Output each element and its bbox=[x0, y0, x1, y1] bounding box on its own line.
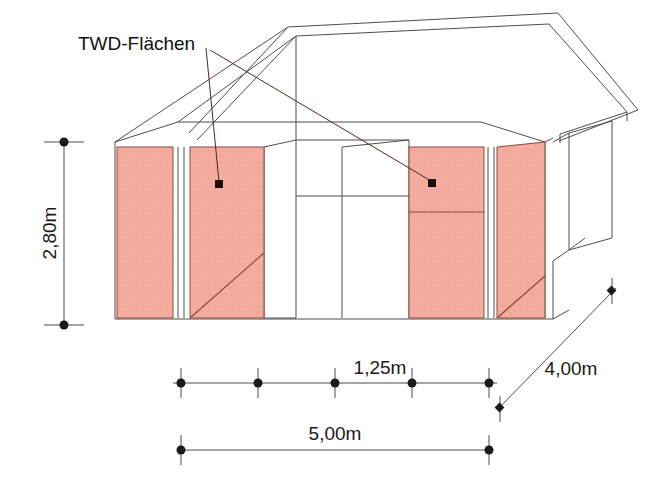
isometric-building-drawing: TWD-Flächen 2,80m 1,25m 5,00m bbox=[0, 0, 649, 500]
mullion-gap-right bbox=[488, 147, 494, 318]
interior-left-jamb-top bbox=[264, 140, 296, 147]
dim-module-dot-5 bbox=[485, 379, 494, 388]
roof-left-inner-edge bbox=[178, 36, 296, 122]
dim-depth-dot-far bbox=[607, 286, 617, 296]
dim-width-label: 5,00m bbox=[309, 423, 362, 444]
dim-height-dot-top bbox=[60, 138, 69, 147]
twd-panel-4 bbox=[497, 142, 545, 318]
dim-module-dot-3 bbox=[331, 379, 340, 388]
ceiling-diagonal-back bbox=[189, 27, 288, 133]
side-wall-lower-connector bbox=[569, 238, 612, 250]
dimension-module bbox=[173, 368, 497, 398]
leader-marker-left bbox=[215, 180, 223, 188]
dim-width-dot-right bbox=[485, 446, 494, 455]
wall-end-depth-line bbox=[545, 138, 553, 142]
dim-depth-label: 4,00m bbox=[545, 358, 598, 379]
mullion-gap-left bbox=[178, 147, 184, 318]
leader-marker-right bbox=[428, 179, 436, 187]
dim-width-dot-left bbox=[177, 446, 186, 455]
front-wall-cap-left bbox=[115, 122, 545, 142]
dim-module-dot-1 bbox=[177, 379, 186, 388]
roof-outer-outline bbox=[197, 13, 639, 140]
side-wall-outer bbox=[553, 250, 569, 319]
interior-mid-wall-top bbox=[342, 140, 409, 147]
side-wall-connector bbox=[569, 121, 612, 133]
side-wall-top-edge bbox=[553, 133, 585, 250]
twd-label: TWD-Flächen bbox=[78, 33, 195, 54]
dim-module-dot-2 bbox=[254, 379, 263, 388]
dim-height-label: 2,80m bbox=[39, 207, 60, 260]
twd-panels bbox=[117, 142, 545, 318]
dim-module-label: 1,25m bbox=[354, 357, 407, 378]
dim-height-dot-bottom bbox=[60, 321, 69, 330]
side-wall-base bbox=[553, 310, 569, 319]
twd-panel-2 bbox=[190, 147, 264, 318]
roof-inner-edge bbox=[296, 24, 627, 134]
twd-panel-3 bbox=[409, 147, 484, 318]
twd-panel-1 bbox=[117, 147, 173, 318]
dim-module-dot-4 bbox=[408, 379, 417, 388]
